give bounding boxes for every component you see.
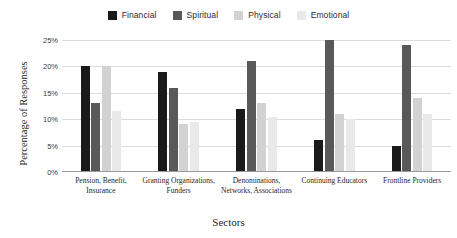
y-axis-title-text: Percentage of Responses [18, 61, 29, 165]
bar-emotional [346, 119, 355, 172]
bar-group [140, 40, 218, 172]
legend-label-spiritual: Spiritual [187, 10, 219, 20]
bar-physical [257, 103, 266, 172]
x-axis-category-label: Pension, Benefit, Insurance [62, 176, 140, 196]
legend-swatch-financial [108, 11, 117, 20]
bar-financial [81, 66, 90, 172]
legend-item-emotional: Emotional [297, 10, 350, 20]
legend-item-physical: Physical [234, 10, 280, 20]
y-axis-tick-label: 0% [47, 168, 58, 177]
bar-financial [392, 146, 401, 172]
bar-emotional [423, 114, 432, 172]
x-axis-category-label: Frontline Providers [373, 176, 451, 186]
legend-swatch-spiritual [173, 11, 182, 20]
bar-group [218, 40, 296, 172]
y-axis-tick-label: 15% [43, 88, 58, 97]
bar-spiritual [325, 40, 334, 172]
x-axis-category-label: Continuing Educators [295, 176, 373, 186]
legend-label-emotional: Emotional [311, 10, 350, 20]
legend-label-financial: Financial [122, 10, 157, 20]
bar-financial [314, 140, 323, 172]
bar-group [373, 40, 451, 172]
bar-financial [158, 72, 167, 172]
bar-emotional [112, 111, 121, 172]
x-axis-line [62, 171, 451, 173]
y-axis-tick-label: 5% [47, 141, 58, 150]
plot-canvas [62, 40, 451, 172]
chart-legend: Financial Spiritual Physical Emotional [0, 10, 457, 20]
bar-groups [62, 40, 451, 172]
bar-spiritual [402, 45, 411, 172]
bar-physical [413, 98, 422, 172]
y-axis-title: Percentage of Responses [16, 48, 30, 178]
bar-emotional [190, 122, 199, 172]
x-axis-title-text: Sectors [212, 216, 244, 228]
y-axis-tick-label: 10% [43, 115, 58, 124]
bar-group [62, 40, 140, 172]
bar-physical [335, 114, 344, 172]
legend-item-financial: Financial [108, 10, 157, 20]
y-axis-tick-label: 20% [43, 62, 58, 71]
x-axis-category-label: Denominations, Networks, Associations [218, 176, 296, 196]
bar-spiritual [169, 88, 178, 172]
bar-physical [102, 66, 111, 172]
legend-label-physical: Physical [248, 10, 280, 20]
legend-swatch-physical [234, 11, 243, 20]
bar-financial [236, 109, 245, 172]
bar-physical [179, 124, 188, 172]
bar-emotional [268, 117, 277, 172]
bar-group [295, 40, 373, 172]
plot-area: 0%5%10%15%20%25% [36, 40, 451, 172]
legend-swatch-emotional [297, 11, 306, 20]
bar-spiritual [247, 61, 256, 172]
bar-chart: Financial Spiritual Physical Emotional P… [0, 0, 457, 238]
y-axis-tick-label: 25% [43, 36, 58, 45]
bar-spiritual [91, 103, 100, 172]
x-axis-category-label: Granting Organizations, Funders [140, 176, 218, 196]
x-axis-category-labels: Pension, Benefit, InsuranceGranting Orga… [62, 176, 451, 196]
legend-item-spiritual: Spiritual [173, 10, 219, 20]
y-axis-ticks: 0%5%10%15%20%25% [36, 40, 62, 172]
x-axis-title: Sectors [0, 216, 457, 228]
